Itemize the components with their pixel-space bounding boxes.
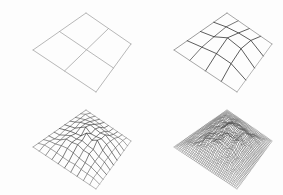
panel-mesh-10x10-subdivision	[0, 97, 141, 194]
mesh-polyline	[44, 140, 103, 180]
mesh-polyline	[58, 122, 104, 163]
mesh-polyline	[75, 117, 124, 150]
mesh-canvas-1	[141, 0, 282, 97]
mesh-polyline	[83, 135, 122, 181]
panel-mesh-40x40-subdivision	[141, 97, 282, 194]
mesh-canvas-0	[0, 0, 141, 97]
mesh-canvas-3	[141, 97, 282, 194]
mesh-polyline	[191, 119, 239, 159]
mesh-polyline	[60, 32, 114, 69]
panel-mesh-4x4-subdivision	[141, 0, 282, 97]
mesh-polyline	[174, 50, 237, 92]
mesh-polyline	[235, 140, 270, 188]
mesh-polyline	[86, 13, 131, 44]
terrain-subdivision-figure: Four wireframe perspective views of a he…	[0, 0, 283, 195]
mesh-polyline	[187, 41, 246, 80]
mesh-polyline	[201, 32, 255, 69]
mesh-polyline	[86, 110, 131, 141]
mesh-polyline	[33, 50, 96, 92]
mesh-polyline	[214, 22, 264, 56]
panel-coarse-2x2-mesh	[0, 0, 141, 97]
mesh-polyline	[206, 29, 250, 72]
mesh-canvas-2	[0, 97, 141, 194]
